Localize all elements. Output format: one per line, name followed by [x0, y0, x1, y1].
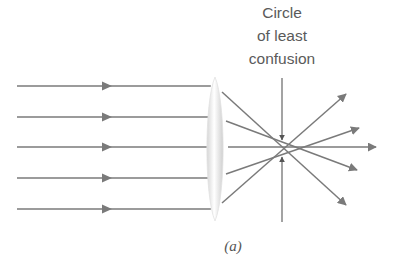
arrow-right-icon	[102, 143, 112, 152]
arrow-right-icon	[102, 113, 112, 122]
refracted-rays	[222, 92, 376, 205]
arrow-right-icon	[102, 174, 112, 183]
incoming-ray	[17, 82, 211, 91]
spherical-aberration-diagram: Circle of least confusion (a)	[0, 0, 396, 280]
incoming-parallel-rays	[17, 82, 211, 214]
figure-caption: (a)	[213, 238, 253, 255]
label-confusion: confusion	[212, 51, 352, 67]
arrow-right-icon	[102, 205, 112, 214]
incoming-ray	[17, 174, 210, 183]
refracted-ray	[226, 128, 359, 174]
label-of-least: of least	[212, 28, 352, 44]
converging-lens	[207, 77, 223, 221]
label-circle: Circle	[212, 5, 352, 21]
incoming-ray	[17, 143, 209, 152]
arrow-right-icon	[102, 82, 112, 91]
refracted-ray	[226, 121, 357, 170]
incoming-ray	[17, 205, 211, 214]
incoming-ray	[17, 113, 210, 122]
refracted-ray	[222, 94, 346, 203]
